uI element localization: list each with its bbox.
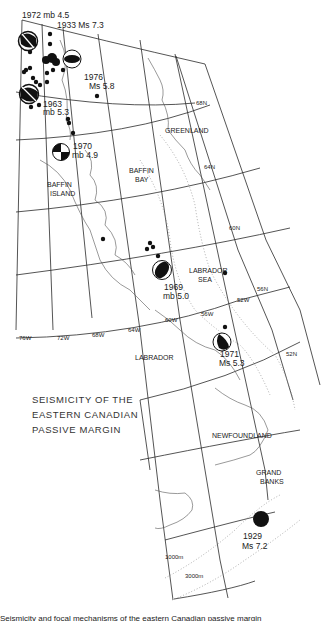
event-label-1929-mag: Ms 7.2 (242, 541, 268, 551)
graticule-labels: 68N 64N 60N 56N 52N 76W 72W 68W 64W 60W … (19, 100, 297, 357)
event-label-1976-mag: Ms 5.8 (89, 81, 115, 91)
figure-title: SEISMICITY OF THE EASTERN CANADIAN PASSI… (32, 392, 138, 437)
figure-title-line-2: EASTERN CANADIAN (32, 407, 138, 422)
coastlines (40, 40, 268, 529)
region-baffin-island-line1: BAFFIN (47, 181, 72, 188)
focal-mechanism-1933 (63, 50, 81, 68)
region-labels: GREENLAND BAFFIN ISLAND BAFFIN BAY LABRA… (47, 127, 284, 579)
lat-label-64n: 64N (204, 164, 215, 170)
figure-caption-text: Seismicity and focal mechanisms of the e… (0, 614, 323, 621)
lat-label-60n: 60N (229, 225, 240, 231)
event-label-1970-mag: mb 4.9 (72, 150, 98, 160)
lat-label-52n: 52N (286, 351, 297, 357)
lat-label-56n: 56N (257, 286, 268, 292)
figure-title-line-3: PASSIVE MARGIN (32, 422, 138, 437)
focal-mechanism-1970 (53, 144, 70, 161)
lon-label-72w: 72W (57, 335, 70, 341)
region-labrador: LABRADOR (135, 354, 174, 361)
event-label-1971-mag: Ms 5.3 (219, 358, 245, 368)
lon-label-56w: 56W (201, 311, 214, 317)
region-grand-banks-line1: GRAND (256, 469, 281, 476)
event-label-1933: 1933 Ms 7.3 (57, 20, 104, 30)
region-labrador-sea-line1: LABRADOR (189, 267, 228, 274)
seismicity-map: 68N 64N 60N 56N 52N 76W 72W 68W 64W 60W … (0, 0, 323, 621)
event-label-1963-mag: mb 5.3 (43, 107, 69, 117)
region-greenland: GREENLAND (165, 127, 209, 134)
focal-mechanism-1969 (152, 259, 172, 281)
lat-label-68n: 68N (196, 100, 207, 106)
lon-label-64w: 64W (128, 327, 141, 333)
lon-label-52w: 52W (237, 297, 250, 303)
lon-label-68w: 68W (92, 332, 105, 338)
contour-label-1000m: 1000m (165, 554, 183, 560)
event-labels: 1972 mb 4.5 1933 Ms 7.3 1976 Ms 5.8 1963… (22, 10, 268, 551)
event-label-1929-year: 1929 (243, 531, 262, 541)
contour-label-3000m: 3000m (185, 573, 203, 579)
region-newfoundland: NEWFOUNDLAND (212, 432, 272, 439)
focal-mechanism-1963 (20, 85, 39, 104)
figure-title-line-1: SEISMICITY OF THE (32, 392, 138, 407)
lon-label-76w: 76W (19, 335, 32, 341)
region-baffin-bay-line2: BAY (135, 176, 149, 183)
focal-mechanism-1972 (19, 32, 38, 51)
region-baffin-island-line2: ISLAND (50, 190, 75, 197)
focal-mechanism-1929 (253, 511, 269, 527)
event-label-1969-mag: mb 5.0 (163, 291, 189, 301)
region-labrador-sea-line2: SEA (198, 276, 212, 283)
figure-caption-cropped: Seismicity and focal mechanisms of the e… (0, 612, 323, 621)
lon-label-60w: 60W (165, 317, 178, 323)
event-label-1972: 1972 mb 4.5 (22, 10, 70, 20)
region-baffin-bay-line1: BAFFIN (129, 167, 154, 174)
region-grand-banks-line2: BANKS (260, 478, 284, 485)
